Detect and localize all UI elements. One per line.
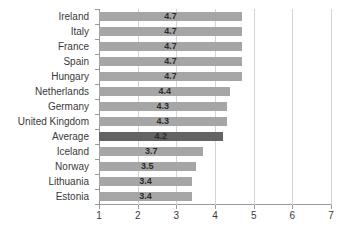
y-tick-mark: [95, 144, 99, 145]
bar-value-label: 3.4: [139, 190, 152, 202]
category-label-ireland: Ireland: [0, 9, 94, 24]
bar-value-label: 4.7: [164, 25, 177, 37]
category-label-estonia: Estonia: [0, 189, 94, 204]
bar-row: 4.7: [99, 9, 331, 24]
bar-value-label: 3.5: [141, 160, 154, 172]
bar-value-label: 4.7: [164, 55, 177, 67]
y-tick-mark: [95, 189, 99, 190]
category-label-average: Average: [0, 129, 94, 144]
bar-value-label: 3.4: [139, 175, 152, 187]
category-label-united-kingdom: United Kingdom: [0, 114, 94, 129]
bar-value-label: 4.3: [157, 115, 170, 127]
y-tick-mark: [95, 174, 99, 175]
bar-rows: 4.74.74.74.74.74.44.34.34.23.73.53.43.4: [99, 9, 331, 204]
y-tick-mark: [95, 99, 99, 100]
bar-value-label: 4.2: [155, 130, 168, 142]
x-tick-mark-6: [292, 205, 293, 209]
bar-row: 4.7: [99, 39, 331, 54]
category-label-netherlands: Netherlands: [0, 84, 94, 99]
x-tick-label-6: 6: [290, 210, 296, 222]
bar-row: 4.7: [99, 54, 331, 69]
x-tick-label-4: 4: [212, 210, 218, 222]
category-label-germany: Germany: [0, 99, 94, 114]
bar-value-label: 4.4: [158, 85, 171, 97]
x-tick-label-7: 7: [328, 210, 334, 222]
y-tick-mark: [95, 69, 99, 70]
category-label-hungary: Hungary: [0, 69, 94, 84]
bar-row: 4.3: [99, 114, 331, 129]
y-tick-mark: [95, 39, 99, 40]
bar-row: 3.4: [99, 189, 331, 204]
bar-row: 4.7: [99, 24, 331, 39]
gridline-7: [331, 9, 332, 205]
category-label-spain: Spain: [0, 54, 94, 69]
y-tick-mark: [95, 129, 99, 130]
y-tick-mark: [95, 159, 99, 160]
bar-row: 3.7: [99, 144, 331, 159]
bar-value-label: 4.7: [164, 40, 177, 52]
bar-value-label: 4.3: [157, 100, 170, 112]
x-tick-label-1: 1: [96, 210, 102, 222]
bar-row: 3.4: [99, 174, 331, 189]
x-tick-mark-1: [99, 205, 100, 209]
plot-area: 4.74.74.74.74.74.44.34.34.23.73.53.43.4: [99, 9, 331, 205]
x-tick-mark-4: [215, 205, 216, 209]
category-label-france: France: [0, 39, 94, 54]
y-tick-mark: [95, 9, 99, 10]
x-tick-label-5: 5: [251, 210, 257, 222]
bar-value-label: 4.7: [164, 10, 177, 22]
bar-value-label: 3.7: [145, 145, 158, 157]
bar-chart: IrelandItalyFranceSpainHungaryNetherland…: [0, 0, 347, 236]
bar-value-label: 4.7: [164, 70, 177, 82]
x-tick-label-3: 3: [174, 210, 180, 222]
y-tick-mark: [95, 24, 99, 25]
x-tick-mark-7: [331, 205, 332, 209]
bar-row: 4.2: [99, 129, 331, 144]
y-tick-mark: [95, 54, 99, 55]
x-tick-mark-3: [176, 205, 177, 209]
category-label-iceland: Iceland: [0, 144, 94, 159]
bar-row: 3.5: [99, 159, 331, 174]
bar-row: 4.3: [99, 99, 331, 114]
category-label-lithuania: Lithuania: [0, 174, 94, 189]
bar-row: 4.7: [99, 69, 331, 84]
y-tick-mark: [95, 114, 99, 115]
y-tick-mark: [95, 84, 99, 85]
bar-row: 4.4: [99, 84, 331, 99]
category-label-italy: Italy: [0, 24, 94, 39]
y-tick-mark: [95, 204, 99, 205]
x-tick-label-2: 2: [135, 210, 141, 222]
category-label-norway: Norway: [0, 159, 94, 174]
x-tick-mark-2: [138, 205, 139, 209]
x-tick-mark-5: [254, 205, 255, 209]
